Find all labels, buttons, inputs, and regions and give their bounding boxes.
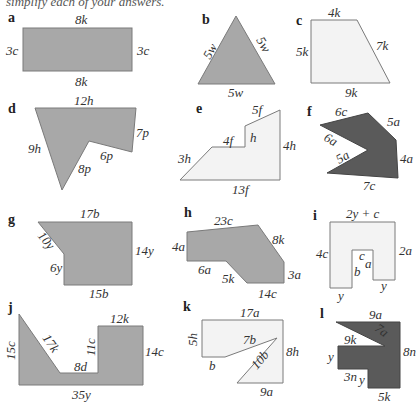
label-e-top: 5f (252, 102, 265, 117)
label-e-right: 4h (283, 138, 296, 153)
label-l-inner-top: 9k (344, 332, 357, 347)
label-d-inner-lower: 8p (78, 161, 92, 176)
label-j-bottom: 35y (71, 387, 91, 402)
label-l-inner-bottom: 3n (343, 369, 357, 384)
label-c-bottom: 9k (345, 85, 358, 100)
label-c-left: 5k (296, 44, 309, 59)
shape-k-polygon (202, 320, 283, 383)
label-j-right: 14c (145, 344, 164, 359)
label-h-top: 23c (214, 213, 233, 228)
shape-j: j 15c 17k 8d 11c 12k 14c 35y (3, 300, 164, 402)
shape-d-polygon (35, 108, 136, 190)
label-d-top: 12h (74, 93, 94, 108)
shape-c-tag: c (296, 13, 302, 28)
shape-l-tag: l (320, 306, 324, 321)
label-i-notch-right: a (365, 256, 372, 271)
label-c-top: 4k (328, 5, 341, 20)
shape-d: d 12h 9h 7p 6p 8p (8, 93, 150, 190)
label-d-inner-upper: 6p (100, 148, 114, 163)
label-e-bottom: 13f (232, 182, 251, 197)
label-k-right: 8h (286, 344, 299, 359)
label-i-left: 4c (316, 246, 329, 261)
shape-c: c 4k 5k 7k 9k (296, 5, 390, 100)
label-f-bottom: 7c (363, 178, 376, 193)
shape-l: l 9a 7a 9k y 3n y 8n 5k (320, 306, 416, 404)
label-a-left: 3c (5, 43, 19, 58)
label-k-lower-left: b (209, 358, 216, 373)
shape-k-tag: k (183, 299, 191, 314)
label-i-bottom-left: y (336, 288, 344, 303)
label-f-top: 6c (335, 104, 348, 119)
label-l-right: 8n (403, 344, 416, 359)
shape-g-tag: g (8, 212, 15, 227)
shape-h: h 23c 8k 4a 6a 5k 3a 14c (172, 205, 302, 301)
shape-i: i 2y + c 4c 2a c b a y y (313, 206, 413, 303)
label-i-right: 2a (399, 243, 413, 258)
shape-f: f 6c 5a 6a 5a 4a 7c (307, 104, 414, 193)
label-i-notch-left: b (354, 264, 361, 279)
label-j-left: 15c (3, 341, 18, 360)
label-g-bottom: 15b (89, 286, 109, 301)
shape-h-tag: h (184, 205, 192, 220)
label-e-step-top: 4f (223, 133, 236, 148)
label-g-left: 6y (50, 260, 63, 275)
label-a-right: 3c (136, 43, 150, 58)
shape-k: k 17a 5h b 7b 10b 8h 9a (183, 299, 299, 399)
shape-b-tag: b (202, 12, 210, 27)
label-e-slant: 3h (177, 151, 191, 166)
label-l-left: y (326, 349, 334, 364)
label-h-right: 3a (287, 267, 302, 282)
shapes-figure: simplify each of your answers. a 8k 3c 3… (0, 0, 418, 407)
instruction-text: simplify each of your answers. (6, 0, 165, 9)
label-c-slant: 7k (376, 38, 389, 53)
label-g-right: 14y (135, 243, 154, 258)
label-h-left: 4a (172, 239, 186, 254)
label-k-inner-upper: 7b (243, 332, 257, 347)
label-i-bottom-right: y (379, 278, 387, 293)
label-l-bottom: 5k (378, 389, 391, 404)
label-i-top: 2y + c (346, 206, 380, 221)
label-h-lower-left: 6a (198, 262, 212, 277)
shape-b: b 5w 5w 5w (198, 12, 275, 100)
shape-a-rectangle (23, 28, 132, 71)
label-g-top: 17b (80, 206, 100, 221)
label-a-top: 8k (75, 12, 88, 27)
shape-a-tag: a (8, 10, 15, 25)
label-j-middle: 8d (74, 359, 88, 374)
label-f-right-slant: 5a (387, 114, 401, 129)
shape-e: e 5f 4f h 3h 4h 13f (177, 101, 296, 197)
label-l-inner-side: y (357, 372, 365, 387)
label-j-step: 11c (83, 338, 98, 356)
label-k-top: 17a (240, 305, 260, 320)
label-j-top: 12k (110, 311, 129, 326)
label-h-bottom: 14c (258, 286, 277, 301)
label-h-right-slant: 8k (272, 232, 285, 247)
label-d-right: 7p (136, 125, 150, 140)
shape-a: a 8k 3c 3c 8k (5, 10, 150, 89)
label-k-left: 5h (185, 333, 200, 346)
shape-d-tag: d (8, 101, 16, 116)
shape-j-tag: j (7, 300, 13, 315)
shape-g-polygon (38, 222, 132, 285)
shape-i-tag: i (313, 208, 317, 223)
label-f-right: 4a (400, 151, 414, 166)
shape-g: g 17b 10y 6y 14y 15b (8, 206, 154, 301)
shape-e-tag: e (196, 101, 202, 116)
label-d-left: 9h (28, 141, 41, 156)
shape-f-tag: f (307, 104, 312, 119)
label-k-bottom: 9a (260, 384, 274, 399)
label-a-bottom: 8k (75, 74, 88, 89)
label-h-lower-slant: 5k (222, 271, 235, 286)
label-b-bottom: 5w (228, 85, 244, 100)
label-e-step-side: h (250, 130, 257, 145)
